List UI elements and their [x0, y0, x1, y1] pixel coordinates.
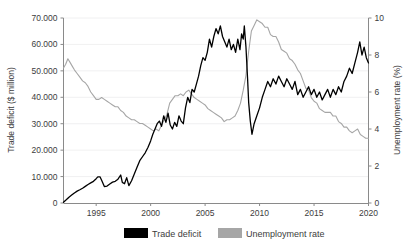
series-line-unemployment-rate	[64, 20, 369, 138]
x-axis-tick-label: 2020	[359, 208, 378, 218]
y-axis-left-tick-label: 0	[53, 198, 58, 208]
y-axis-left-tick-label: 20.000	[32, 145, 58, 155]
chart-figure: 010.00020.00030.00040.00050.00060.00070.…	[0, 0, 413, 249]
legend-swatch-trade-deficit	[124, 228, 148, 238]
gridlines-group	[64, 18, 369, 177]
y-axis-right-title: Unemployment rate (%)	[392, 65, 402, 155]
y-axis-left-ticks-group: 010.00020.00030.00040.00050.00060.00070.…	[32, 13, 64, 208]
y-axis-right-tick-label: 2	[375, 161, 380, 171]
legend-swatch-unemployment-rate	[218, 228, 242, 238]
x-axis-tick-label: 1995	[87, 208, 106, 218]
y-axis-right-tick-label: 8	[375, 50, 380, 60]
y-axis-left-tick-label: 30.000	[32, 119, 58, 129]
y-axis-left-tick-label: 70.000	[32, 13, 58, 23]
chart-container: 010.00020.00030.00040.00050.00060.00070.…	[0, 0, 413, 249]
x-axis-tick-label: 2010	[250, 208, 269, 218]
x-axis-tick-label: 2015	[305, 208, 324, 218]
x-axis-tick-label: 2005	[196, 208, 215, 218]
y-axis-left-tick-label: 40.000	[32, 92, 58, 102]
y-axis-left-title: Trade deficit ($ million)	[6, 67, 16, 153]
y-axis-left-tick-label: 60.000	[32, 39, 58, 49]
y-axis-right-tick-label: 0	[375, 198, 380, 208]
y-axis-left-tick-label: 10.000	[32, 172, 58, 182]
legend-label-unemployment-rate: Unemployment rate	[246, 229, 325, 239]
y-axis-right-tick-label: 10	[375, 13, 385, 23]
y-axis-right-ticks-group: 0246810	[369, 13, 385, 208]
x-axis-tick-label: 2000	[141, 208, 160, 218]
y-axis-right-tick-label: 6	[375, 87, 380, 97]
legend-label-trade-deficit: Trade deficit	[152, 229, 202, 239]
x-axis-ticks-group: 199520002005201020152020	[87, 203, 379, 218]
y-axis-right-tick-label: 4	[375, 124, 380, 134]
y-axis-left-tick-label: 50.000	[32, 66, 58, 76]
legend: Trade deficit Unemployment rate	[124, 228, 325, 239]
